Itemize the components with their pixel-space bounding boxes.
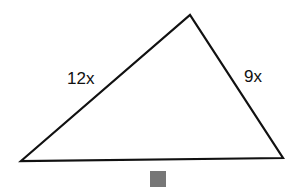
left-side-label: 12x: [67, 69, 94, 89]
triangle-diagram: 12x 9x: [0, 0, 299, 193]
right-side-label: 9x: [244, 67, 262, 87]
unknown-side-marker: [150, 171, 166, 187]
triangle-shape: [0, 0, 299, 193]
